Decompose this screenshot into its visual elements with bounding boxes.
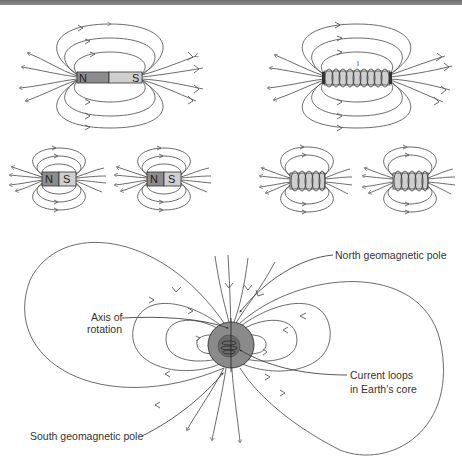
axis-of-rotation-label-2: rotation <box>87 323 122 335</box>
small-bar-magnet-right: N S <box>115 146 211 212</box>
south-label: S <box>63 173 70 185</box>
magnetic-field-diagram: N S <box>0 0 462 472</box>
current-marker: I <box>357 60 359 67</box>
north-pole-pointer <box>240 255 333 312</box>
south-label: S <box>168 173 175 185</box>
north-label: N <box>150 173 158 185</box>
south-label: S <box>132 72 139 84</box>
current-loops-label-2: in Earth's core <box>350 383 417 395</box>
small-solenoid-left <box>260 145 352 214</box>
large-bar-magnet-panel: N S <box>20 24 203 130</box>
north-geomagnetic-pole-label: North geomagnetic pole <box>335 249 447 261</box>
small-bar-magnet-left: N S <box>10 146 106 212</box>
north-label: N <box>79 72 87 84</box>
south-pole-pointer <box>142 373 223 436</box>
small-solenoid-right <box>363 145 455 214</box>
solenoid-end-right <box>389 72 392 84</box>
earth-field-panel: North geomagnetic pole Axis of rotation … <box>25 242 447 455</box>
solenoid-end-left <box>322 72 325 84</box>
north-label: N <box>45 173 53 185</box>
south-geomagnetic-pole-label: South geomagnetic pole <box>30 430 143 442</box>
solenoid-core <box>324 71 390 85</box>
axis-of-rotation-label-1: Axis of <box>91 311 123 323</box>
current-loops-label-1: Current loops <box>350 369 413 381</box>
large-solenoid-panel: I <box>268 22 452 131</box>
